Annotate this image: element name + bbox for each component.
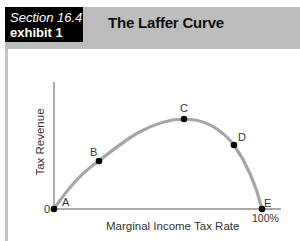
label-a: A [62,196,70,208]
point-a [51,206,58,213]
origin-label: 0 [44,203,50,215]
x-max-label: 100% [252,212,279,224]
label-c: C [180,102,188,114]
laffer-chart: A B C D E 0 100% Marginal Income Tax Rat… [0,0,300,241]
point-b [96,158,103,165]
point-d [231,142,238,149]
x-axis-title: Marginal Income Tax Rate [106,220,239,232]
label-e: E [264,197,271,209]
y-axis-title: Tax Revenue [34,108,46,175]
label-d: D [238,131,246,143]
label-b: B [90,146,97,158]
point-c [181,116,188,123]
laffer-curve [54,119,262,209]
